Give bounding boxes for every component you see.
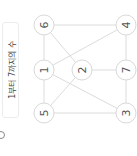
- svg-text:6: 6: [38, 22, 51, 29]
- node-7: 7: [116, 60, 136, 80]
- svg-text:7: 7: [120, 67, 133, 74]
- node-3: 3: [116, 103, 136, 123]
- graph-nodes: 6412753: [34, 15, 136, 123]
- node-5: 5: [34, 103, 54, 123]
- node-6: 6: [34, 15, 54, 35]
- svg-text:1: 1: [38, 67, 51, 74]
- node-1: 1: [34, 60, 54, 80]
- svg-text:3: 3: [120, 110, 133, 117]
- svg-text:5: 5: [38, 110, 51, 117]
- node-2: 2: [72, 60, 92, 80]
- svg-text:4: 4: [120, 22, 133, 29]
- number-graph: 6412753: [0, 0, 137, 156]
- svg-text:2: 2: [76, 67, 89, 74]
- node-4: 4: [116, 15, 136, 35]
